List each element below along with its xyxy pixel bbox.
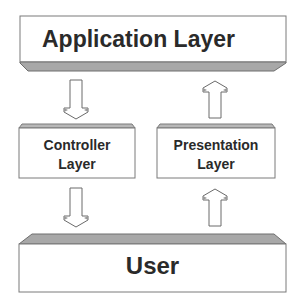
controller-layer-label: Controller Layer <box>19 136 135 174</box>
presentation-layer-label: Presentation Layer <box>157 136 275 174</box>
arrow-down-icon <box>64 80 88 119</box>
arrow-up-icon <box>203 189 227 226</box>
arrow-down-icon <box>64 188 88 227</box>
controller-label-line2: Layer <box>19 155 135 174</box>
controller-label-line1: Controller <box>19 136 135 155</box>
arrow-up-icon <box>203 81 227 118</box>
presentation-label-line2: Layer <box>157 155 275 174</box>
presentation-label-line1: Presentation <box>157 136 275 155</box>
application-layer-label: Application Layer <box>20 28 250 51</box>
user-label: User <box>19 254 286 278</box>
